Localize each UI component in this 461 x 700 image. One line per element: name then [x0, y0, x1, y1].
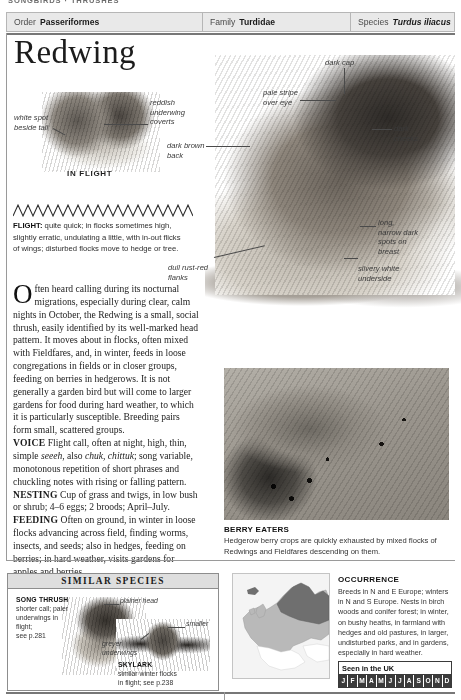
- callout-dull-flanks: dull rust-red flanks: [168, 263, 208, 282]
- family-label: Family: [210, 17, 235, 27]
- callout-dark-brown-back: dark brown back: [167, 141, 205, 160]
- leader-breast-spots: [360, 226, 376, 227]
- voice-text-b: , also: [62, 450, 85, 461]
- leader-pale-stripe: [300, 100, 336, 101]
- song-thrush-desc: shorter call; paler underwings in flight…: [16, 605, 72, 641]
- lower-rule: [6, 560, 455, 561]
- field-guide-page: SONGBIRDS · THRUSHES Order Passeriformes…: [0, 0, 461, 700]
- leader-dark-brown-back: [206, 146, 250, 147]
- leader-plainer-head: [104, 604, 119, 605]
- feeding-paragraph: FEEDING Often on ground, in winter in lo…: [13, 514, 199, 578]
- map-iceland: [247, 587, 259, 595]
- leader-dark-cheeks: [372, 129, 392, 130]
- callout-dark-cap: dark cap: [325, 58, 354, 68]
- page-title: Redwing: [14, 36, 136, 69]
- intro-paragraph: ften heard calling during its nocturnal …: [13, 283, 199, 435]
- taxonomy-family: Family Turdidae: [203, 13, 351, 31]
- callout-reddish-coverts: reddish underwing coverts: [150, 98, 185, 127]
- month-cell: J: [396, 675, 405, 687]
- leader-dark-cap: [344, 68, 345, 94]
- footer-vertical-rule: [224, 692, 225, 700]
- month-cell: J: [386, 675, 395, 687]
- callout-breast-spots: long, narrow dark spots on breast: [378, 218, 418, 256]
- order-value: Passeriformes: [40, 17, 99, 27]
- left-vertical-rule: [6, 33, 7, 560]
- flight-heading: FLIGHT:: [13, 221, 42, 230]
- taxonomy-order: Order Passeriformes: [7, 13, 203, 31]
- leader-reddish-coverts: [104, 124, 148, 125]
- distribution-map: [232, 573, 330, 679]
- seen-in-uk-panel: Seen in the UK JFMAMJJASOND: [338, 661, 452, 688]
- flight-path-zigzag-icon: [13, 203, 193, 218]
- map-turkey-nonrange: [303, 644, 329, 662]
- month-cell: M: [358, 675, 367, 687]
- callout-dark-cheeks: dark cheeks: [394, 124, 418, 143]
- callout-white-spot: white spot beside tail: [14, 113, 48, 132]
- in-flight-caption: IN FLIGHT: [67, 169, 112, 178]
- drop-cap: O: [13, 283, 35, 305]
- similar-species-heading: SIMILAR SPECIES: [8, 574, 218, 589]
- months-row: JFMAMJJASOND: [339, 675, 451, 687]
- flight-description: FLIGHT: quite quick; in flocks sometimes…: [13, 220, 189, 255]
- occurrence-text: Breeds in N and E Europe; winters in N a…: [338, 587, 452, 659]
- berry-caption-text: Hedgerow berry crops are quickly exhaust…: [224, 536, 452, 558]
- nesting-paragraph: NESTING Cup of grass and twigs, in low b…: [13, 489, 199, 515]
- month-cell: O: [424, 675, 433, 687]
- order-label: Order: [14, 17, 36, 27]
- map-europe-svg: [233, 574, 330, 679]
- voice-call-2: chuk, chittuk: [85, 450, 134, 461]
- nesting-heading: NESTING: [13, 489, 58, 500]
- callout-greyer-underwings: greyer underwings: [102, 640, 137, 657]
- voice-heading: VOICE: [13, 437, 45, 448]
- month-cell: F: [348, 675, 357, 687]
- voice-paragraph: VOICE Flight call, often at night, high,…: [13, 437, 199, 488]
- month-cell: A: [367, 675, 376, 687]
- similar-species-body: SONG THRUSH shorter call; paler underwin…: [8, 589, 218, 691]
- berry-caption-title: BERRY EATERS: [224, 525, 289, 534]
- callout-plainer-head: plainer head: [120, 597, 158, 606]
- footer-rule: [6, 692, 455, 694]
- month-cell: N: [433, 675, 442, 687]
- skylark-name: SKYLARK: [118, 661, 152, 668]
- month-cell: A: [405, 675, 414, 687]
- month-cell: M: [377, 675, 386, 687]
- running-header: SONGBIRDS · THRUSHES: [8, 0, 119, 5]
- berry-eaters-photo: [224, 368, 449, 520]
- species-label: Species: [358, 17, 389, 27]
- seen-in-uk-label: Seen in the UK: [339, 662, 451, 675]
- month-cell: J: [339, 675, 348, 687]
- similar-species-panel: SIMILAR SPECIES SONG THRUSH shorter call…: [7, 573, 219, 691]
- leader-smaller: [168, 627, 185, 628]
- species-account-text: Often heard calling during its nocturnal…: [13, 283, 199, 578]
- leader-silvery-underside: [344, 258, 358, 259]
- taxonomy-bar: Order Passeriformes Family Turdidae Spec…: [6, 12, 455, 32]
- callout-pale-stripe: pale stripe over eye: [263, 88, 298, 107]
- callout-smaller: smaller: [186, 620, 208, 629]
- occurrence-title: OCCURRENCE: [338, 575, 399, 584]
- voice-call-1: seeeh: [41, 450, 62, 461]
- month-cell: D: [443, 675, 451, 687]
- callout-silvery-underside: silvery white underside: [358, 264, 399, 283]
- species-value: Turdus iliacus: [393, 17, 451, 27]
- taxonomy-species: Species Turdus iliacus: [351, 13, 454, 31]
- redwing-main-illustration: [215, 55, 455, 295]
- skylark-desc: similar winter flocks in flight; see p.2…: [118, 670, 214, 688]
- family-value: Turdidae: [239, 17, 275, 27]
- feeding-heading: FEEDING: [13, 514, 58, 525]
- song-thrush-name: SONG THRUSH: [16, 596, 68, 603]
- month-cell: S: [414, 675, 423, 687]
